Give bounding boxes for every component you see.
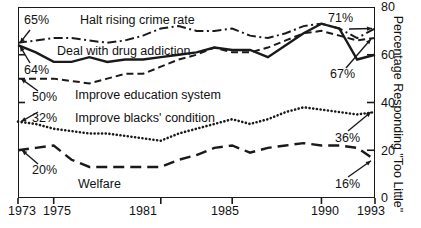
annotation-71-percent: 71% [328,12,353,25]
chart-figure: 80 60 40 20 0 Percentage Responding "Too… [0,0,421,228]
x-tick-label-1975: 1975 [43,205,71,218]
annotation-16-percent: 16% [335,178,360,191]
series-label-crime: Halt rising crime rate [80,14,195,27]
x-tick-label-1990: 1990 [311,205,339,218]
annotation-36-percent: 36% [335,132,360,145]
y-axis-title: Percentage Responding "Too Little" [391,16,405,213]
annotation-50-percent: 50% [32,91,57,104]
series-line-dash-dot [18,24,375,43]
annotation-20-percent: 20% [32,164,57,177]
series-label-welfare: Welfare [78,178,121,191]
annotation-65-percent: 65% [24,14,49,27]
y-axis-ticks [367,55,375,151]
series-label-education: Improve education system [75,89,221,102]
x-tick-label-1993: 1993 [357,205,385,218]
y-tick-label-0: 0 [381,192,388,205]
annotation-leader-line [346,39,371,68]
annotation-64-percent: 64% [24,64,49,77]
series-label-blacks: Improve blacks' condition [75,112,215,125]
x-tick-label-1973: 1973 [8,205,36,218]
y-tick-label-80: 80 [381,1,395,14]
x-tick-label-1985: 1985 [211,205,239,218]
series-label-drugs: Deal with drug addiction [57,45,190,58]
annotation-67-percent: 67% [330,68,355,81]
x-tick-label-1981: 1981 [129,205,157,218]
annotation-32-percent: 32% [32,112,57,125]
series-line-long-dash [18,143,375,167]
